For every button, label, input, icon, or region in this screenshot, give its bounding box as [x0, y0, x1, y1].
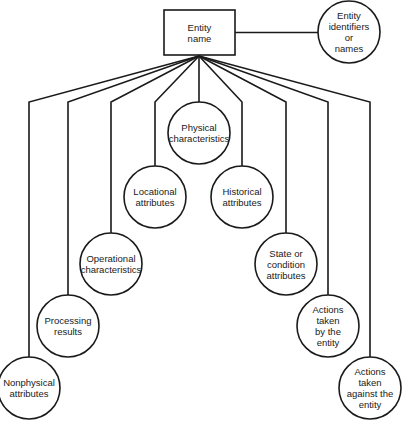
node-processing: Processingresults — [37, 295, 99, 357]
node-nonphysical: Nonphysicalattributes — [0, 357, 60, 419]
node-physical: Physicalcharacteristics — [168, 102, 230, 164]
node-label-line: results — [54, 326, 82, 337]
node-label-line: Physical — [181, 122, 216, 133]
node-locational: Locationalattributes — [124, 166, 186, 228]
node-label-line: Processing — [45, 315, 92, 326]
node-label-line: identifiers — [329, 21, 370, 32]
node-actions-by: Actionstakenby theentity — [297, 295, 359, 357]
node-label-line: entity — [359, 399, 382, 410]
node-label-line: or — [345, 32, 353, 43]
entity-identifiers-node: Entityidentifiersornames — [318, 1, 380, 63]
node-operational: Operationalcharacteristics — [80, 233, 142, 295]
node-historical: Historicalattributes — [211, 166, 273, 228]
node-label-line: by the — [315, 326, 341, 337]
node-label-line: name — [188, 33, 212, 44]
diagram-nodes: EntitynameEntityidentifiersornamesNonphy… — [0, 1, 401, 419]
node-label-line: Nonphysical — [3, 377, 55, 388]
node-label-line: Operational — [86, 253, 135, 264]
node-label-line: Actions — [312, 304, 343, 315]
node-label-line: State or — [269, 248, 302, 259]
node-label-line: attributes — [266, 270, 305, 281]
entity-name-node: Entityname — [164, 10, 235, 55]
node-label-line: Actions — [354, 366, 385, 377]
node-actions-against: Actionstakenagainst theentity — [339, 357, 401, 419]
node-label-line: Entity — [188, 22, 212, 33]
node-state: State orconditionattributes — [255, 233, 317, 295]
node-label-line: taken — [316, 315, 339, 326]
node-label-line: characteristics — [81, 264, 142, 275]
node-label-line: attributes — [222, 197, 261, 208]
node-label-line: attributes — [135, 197, 174, 208]
node-label-line: against the — [347, 388, 393, 399]
node-label-line: entity — [317, 337, 340, 348]
node-label-line: attributes — [9, 388, 48, 399]
node-label-line: condition — [267, 259, 305, 270]
entity-diagram: EntitynameEntityidentifiersornamesNonphy… — [0, 0, 410, 426]
node-label-line: Historical — [222, 186, 261, 197]
node-label-line: Locational — [133, 186, 176, 197]
node-label-line: characteristics — [169, 133, 230, 144]
node-label-line: Entity — [337, 10, 361, 21]
node-label-line: names — [335, 43, 364, 54]
node-label-line: taken — [358, 377, 381, 388]
